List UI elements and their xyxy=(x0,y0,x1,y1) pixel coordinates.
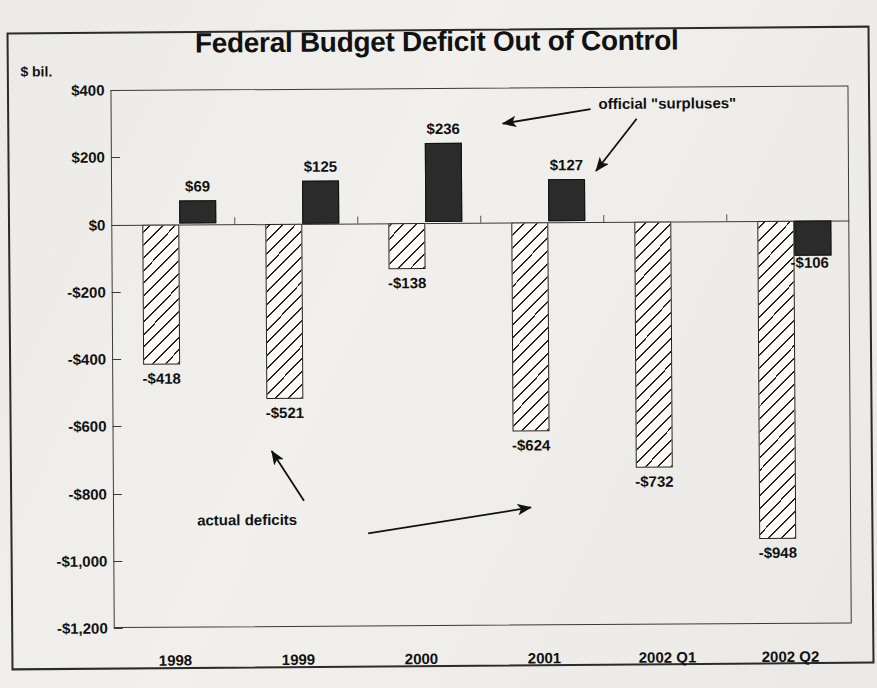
bar-value-label-deficit: -$948 xyxy=(759,544,797,561)
y-axis-tick-label: -$1,000 xyxy=(56,552,107,569)
bar-value-label-deficit: -$624 xyxy=(512,437,550,454)
bar-official-surplus xyxy=(302,181,339,223)
x-axis-tick-mark xyxy=(357,216,358,223)
bar-official-surplus xyxy=(794,220,831,256)
chart-stage: Federal Budget Deficit Out of Control $ … xyxy=(0,0,877,688)
y-axis-tick-mark xyxy=(112,359,121,360)
y-axis-tick-labels: $400$200$0-$200-$400-$600-$800-$1,000-$1… xyxy=(0,90,108,629)
bar-value-label-deficit: -$418 xyxy=(142,370,180,387)
y-axis-tick-label: -$800 xyxy=(69,485,107,502)
annotation-official-surpluses: official "surpluses" xyxy=(599,94,737,112)
scanned-page: Federal Budget Deficit Out of Control $ … xyxy=(0,0,877,688)
bar-value-label-deficit: -$732 xyxy=(635,472,673,489)
x-axis-tick-label: 2002 Q2 xyxy=(762,648,820,665)
y-axis-tick-label: -$200 xyxy=(67,283,105,300)
y-axis-tick-mark xyxy=(113,493,122,494)
y-axis-tick-mark xyxy=(111,157,120,158)
y-axis-unit-label: $ bil. xyxy=(20,63,52,79)
bar-value-label-surplus: $236 xyxy=(426,120,459,137)
annotation-actual-deficits: actual deficits xyxy=(197,511,297,529)
bar-value-label-surplus: $127 xyxy=(550,156,583,173)
x-axis-tick-label: 2002 Q1 xyxy=(639,648,697,665)
bar-value-label-deficit: -$138 xyxy=(388,274,426,291)
y-axis-tick-label: $0 xyxy=(89,216,106,233)
x-axis-tick-mark xyxy=(480,215,481,222)
y-axis-tick-mark xyxy=(113,426,122,427)
bar-actual-deficit xyxy=(388,223,425,270)
bar-actual-deficit xyxy=(265,223,303,398)
y-axis-tick-label: $400 xyxy=(71,82,104,99)
bar-actual-deficit xyxy=(142,224,180,365)
x-axis-tick-labels: 19981999200020012002 Q12002 Q2 xyxy=(114,633,852,678)
y-axis-tick-mark xyxy=(114,628,123,629)
bar-actual-deficit xyxy=(511,222,549,432)
bar-official-surplus xyxy=(179,201,216,224)
y-axis-tick-mark xyxy=(111,224,120,225)
y-axis-tick-label: -$1,200 xyxy=(57,620,108,637)
y-axis-tick-mark xyxy=(113,561,122,562)
plot-area: -$418$69-$521$125-$138$236-$624$127-$732… xyxy=(110,86,851,628)
y-axis-tick-label: $200 xyxy=(71,149,104,166)
page-title: Federal Budget Deficit Out of Control xyxy=(0,23,875,60)
bar-value-label-surplus: -$106 xyxy=(790,254,828,271)
bar-value-label-surplus: $69 xyxy=(185,178,210,195)
x-axis-tick-label: 2001 xyxy=(528,649,561,666)
x-axis-tick-mark xyxy=(726,214,727,221)
y-axis-tick-label: -$400 xyxy=(68,351,106,368)
bar-official-surplus xyxy=(425,143,462,223)
bar-value-label-surplus: $125 xyxy=(304,158,337,175)
x-axis-tick-label: 1999 xyxy=(282,651,315,668)
bar-actual-deficit xyxy=(634,221,673,467)
y-axis-tick-label: -$600 xyxy=(68,418,106,435)
x-axis-tick-label: 2000 xyxy=(405,650,438,667)
x-axis-tick-mark xyxy=(234,217,235,224)
y-axis-tick-mark xyxy=(110,90,119,91)
x-axis-tick-mark xyxy=(603,214,604,221)
bar-official-surplus xyxy=(548,179,585,222)
bar-value-label-deficit: -$521 xyxy=(266,404,304,421)
x-axis-tick-label: 1998 xyxy=(159,652,192,669)
y-axis-tick-mark xyxy=(112,292,121,293)
